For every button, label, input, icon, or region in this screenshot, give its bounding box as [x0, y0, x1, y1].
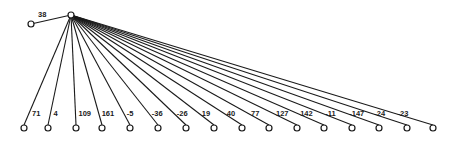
tree-node-leaf	[321, 125, 327, 131]
leaf-label: 40	[227, 109, 235, 118]
leaf-label: 77	[251, 109, 259, 118]
leaf-label: -147	[349, 109, 364, 118]
tree-diagram: 38714109161-5-36-26194077127142-11-147-2…	[0, 0, 460, 142]
tree-node-root	[68, 12, 74, 18]
tree-node-leaf	[266, 125, 272, 131]
tree-node-leaf	[294, 125, 300, 131]
tree-node-leaf	[21, 125, 27, 131]
tree-node-leaf	[183, 125, 189, 131]
tree-node-leaf	[155, 125, 161, 131]
tree-node-leaf	[349, 125, 355, 131]
edge-leaf	[48, 15, 71, 125]
leaf-label: 109	[78, 109, 91, 118]
leaf-label: 4	[53, 109, 58, 118]
leaf-label: 19	[202, 109, 210, 118]
leaf-label: -23	[398, 109, 409, 118]
tree-node-leaf	[73, 125, 79, 131]
leaf-label: -11	[325, 109, 335, 118]
edge-leaf	[71, 15, 214, 125]
tree-node-leaf	[127, 125, 133, 131]
leaf-label: 127	[276, 109, 289, 118]
edge-label: 38	[38, 10, 46, 19]
leaf-label: -24	[374, 109, 386, 118]
tree-node-leaf	[376, 125, 382, 131]
leaf-label: -26	[177, 109, 188, 118]
tree-node-leaf	[211, 125, 217, 131]
leaf-label: 142	[300, 109, 313, 118]
tree-node-leaf	[45, 125, 51, 131]
tree-node-leaf	[239, 125, 245, 131]
leaf-label: -5	[127, 109, 134, 118]
tree-node-leaf	[99, 125, 105, 131]
leaf-label: -36	[152, 109, 163, 118]
tree-node-left	[28, 21, 34, 27]
leaf-label: 71	[32, 109, 40, 118]
leaf-label: 161	[102, 109, 115, 118]
tree-node-leaf	[404, 125, 410, 131]
tree-node-leaf	[430, 125, 436, 131]
edge-left-child	[31, 15, 71, 24]
